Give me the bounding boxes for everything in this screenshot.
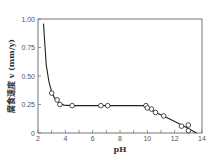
data-point-marker: [55, 98, 60, 103]
x-tick-label: 4: [63, 135, 67, 142]
x-axis-ticks: 2468101214: [36, 130, 206, 142]
data-point-marker: [179, 124, 184, 129]
y-tick-label: 0.50: [21, 73, 35, 80]
data-point-marker: [186, 128, 191, 133]
y-tick-label: 0: [31, 130, 35, 137]
data-point-marker: [105, 103, 110, 108]
data-point-marker: [186, 123, 191, 128]
y-tick-label: 0.25: [21, 101, 35, 108]
data-point-marker: [99, 103, 104, 108]
x-tick-label: 6: [91, 135, 95, 142]
x-tick-label: 8: [118, 135, 122, 142]
fit-curve: [44, 24, 197, 133]
y-axis-title: 腐食速度 v (mm/y): [6, 39, 16, 114]
x-tick-label: 14: [198, 135, 206, 142]
y-tick-label: 0.75: [21, 44, 35, 51]
corrosion-rate-chart: 2468101214 00.250.500.751.00 pH 腐食速度 v (…: [0, 0, 218, 158]
x-tick-label: 10: [143, 135, 151, 142]
data-point-marker: [161, 114, 166, 119]
x-tick-label: 12: [171, 135, 179, 142]
data-point-marker: [58, 102, 63, 107]
data-series: [44, 24, 197, 133]
data-point-marker: [49, 91, 54, 96]
data-point-marker: [70, 103, 75, 108]
data-point-marker: [149, 107, 154, 112]
data-point-marker: [153, 110, 158, 115]
plot-frame: [38, 19, 202, 133]
x-axis-title: pH: [113, 144, 127, 154]
y-tick-label: 1.00: [21, 16, 35, 23]
x-tick-label: 2: [36, 135, 40, 142]
